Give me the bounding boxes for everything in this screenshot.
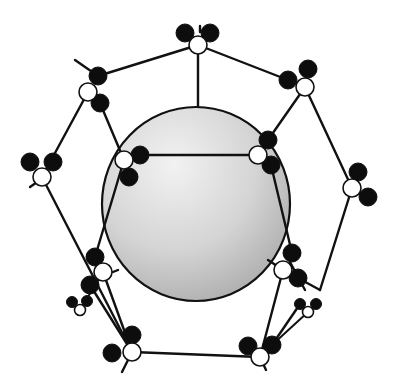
white-atom [296,78,314,96]
white-atom [343,179,361,197]
black-atom [21,153,39,171]
black-atom [283,244,301,262]
white-atom [251,348,269,366]
black-atom [359,188,377,206]
black-atom [120,168,138,186]
black-atom [103,344,121,362]
white-atom [303,307,314,318]
black-atom [44,153,62,171]
black-atom [123,326,141,344]
molecular-diagram [0,0,400,384]
black-atom [279,71,297,89]
white-atom [33,168,51,186]
white-atom [115,151,133,169]
white-atom [123,343,141,361]
white-atom [189,36,207,54]
white-atom [249,146,267,164]
white-atom [75,305,86,316]
white-atom [274,261,292,279]
black-atom [299,60,317,78]
white-atom [79,83,97,101]
white-atom [94,263,112,281]
black-atom [89,67,107,85]
